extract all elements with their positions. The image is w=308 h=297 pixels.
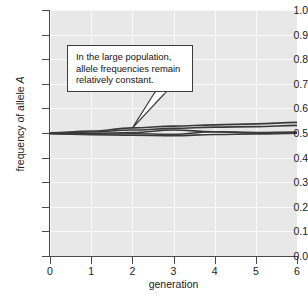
y-tick-mark xyxy=(42,256,49,257)
y-tick-label: 0.1 xyxy=(268,226,308,236)
y-tick-label: 0.2 xyxy=(268,202,308,212)
x-tick-label: 5 xyxy=(246,266,266,276)
x-tick-mark xyxy=(297,257,298,264)
y-tick-mark xyxy=(42,231,49,232)
y-tick-label: 0.3 xyxy=(268,177,308,187)
y-axis-line xyxy=(49,10,50,257)
x-tick-mark xyxy=(256,257,257,264)
y-tick-mark xyxy=(42,35,49,36)
y-tick-mark xyxy=(42,207,49,208)
y-tick-label: 0.4 xyxy=(268,153,308,163)
x-tick-mark xyxy=(174,257,175,264)
callout-tail-wedge xyxy=(132,92,166,128)
y-tick-label: 0.5 xyxy=(268,128,308,138)
x-tick-mark xyxy=(215,257,216,264)
x-tick-label: 2 xyxy=(122,266,142,276)
y-tick-mark xyxy=(42,108,49,109)
y-tick-label: 0.9 xyxy=(268,30,308,40)
y-tick-mark xyxy=(42,10,49,11)
y-tick-mark xyxy=(42,59,49,60)
x-tick-label: 3 xyxy=(164,266,184,276)
x-axis-title: generation xyxy=(50,278,297,290)
x-tick-label: 0 xyxy=(40,266,60,276)
y-tick-mark xyxy=(42,133,49,134)
x-tick-mark xyxy=(91,257,92,264)
allele-frequency-chart: 0.00.10.20.30.40.50.60.70.80.91.0 012345… xyxy=(0,0,308,297)
x-tick-mark xyxy=(50,257,51,264)
x-tick-label: 4 xyxy=(205,266,225,276)
x-tick-label: 1 xyxy=(81,266,101,276)
y-tick-mark xyxy=(42,182,49,183)
annotation-callout-text: In the large population, allele frequenc… xyxy=(68,46,192,86)
y-tick-label: 0.6 xyxy=(268,103,308,113)
annotation-callout: In the large population, allele frequenc… xyxy=(67,45,193,92)
y-tick-label: 0.0 xyxy=(268,251,308,261)
y-tick-mark xyxy=(42,84,49,85)
y-tick-label: 1.0 xyxy=(268,5,308,15)
x-tick-label: 6 xyxy=(287,266,307,276)
y-axis-title: frequency of allele A xyxy=(14,44,26,204)
y-tick-label: 0.8 xyxy=(268,54,308,64)
x-tick-mark xyxy=(132,257,133,264)
y-tick-label: 0.7 xyxy=(268,79,308,89)
y-tick-mark xyxy=(42,158,49,159)
